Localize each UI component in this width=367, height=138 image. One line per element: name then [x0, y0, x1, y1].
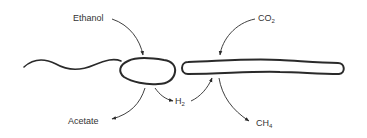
bacterium-cell: [120, 58, 175, 84]
label-co2: CO2: [258, 14, 275, 23]
arrow-co2-to-methanogen: [220, 19, 255, 55]
label-h2: H2: [175, 97, 185, 106]
arrow-methanogen-to-ch4: [219, 78, 249, 121]
arrow-ethanol-to-bacterium: [112, 19, 143, 55]
syntrophy-diagram: [0, 0, 367, 138]
arrow-h2-to-methanogen: [191, 78, 212, 101]
label-ch4: CH4: [256, 119, 272, 128]
flagellum: [24, 60, 121, 70]
arrow-bacterium-to-acetate: [112, 88, 145, 119]
methanogen-cell: [182, 59, 344, 74]
label-acetate: Acetate: [68, 117, 99, 126]
arrow-bacterium-to-h2: [155, 88, 173, 101]
label-ethanol: Ethanol: [73, 14, 104, 23]
